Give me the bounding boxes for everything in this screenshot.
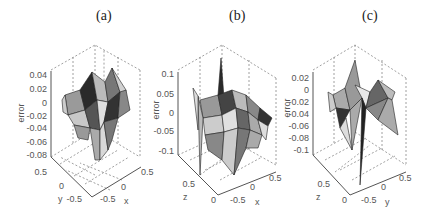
svg-text:0.5: 0.5 [317,179,330,189]
plot-b-z2-ticks: 0.5 0 [182,179,216,205]
plot-c-base-axes [313,155,406,195]
svg-text:0.5: 0.5 [182,179,195,189]
svg-text:0.1: 0.1 [161,69,174,79]
plot-c-xlabel: y [385,197,390,207]
svg-text:0: 0 [42,98,47,108]
svg-text:0: 0 [169,108,174,118]
plot-c-surface [328,60,398,185]
svg-text:0.02: 0.02 [29,84,47,94]
svg-text:0: 0 [342,195,347,205]
svg-text:0: 0 [59,181,64,191]
svg-text:-0.08: -0.08 [288,133,309,143]
svg-text:-0.5: -0.5 [66,194,82,204]
svg-text:-0.1: -0.1 [293,145,309,155]
svg-text:-0.04: -0.04 [26,123,47,133]
svg-text:0: 0 [381,182,386,192]
plot-b-ylabel: z [183,192,188,202]
svg-text:-0.05: -0.05 [153,126,174,136]
svg-text:0.5: 0.5 [399,173,412,183]
plot-a-xlabel: x [124,196,129,206]
svg-text:0: 0 [211,195,216,205]
svg-text:0: 0 [250,182,255,192]
svg-text:0.04: 0.04 [29,70,47,80]
plot-b: 0.1 0.05 0 -0.05 -0.1 error 0.5 0 z -0.5… [151,45,282,207]
plot-c: 0.02 0 -0.02 -0.04 -0.06 -0.08 -0.1 erro… [282,45,412,207]
svg-text:0: 0 [304,85,309,95]
plot-c-zlabel: error [282,98,292,117]
plot-b-surface [193,58,272,175]
plot-a-zlabel: error [16,103,26,122]
plot-b-xlabel: x [255,197,260,207]
svg-text:0.5: 0.5 [34,167,47,177]
plot-a-surface [62,68,130,160]
svg-text:-0.06: -0.06 [288,121,309,131]
svg-text:-0.06: -0.06 [26,137,47,147]
plot-c-ylabel: z [316,192,321,202]
svg-text:0.5: 0.5 [269,173,282,183]
plot-a-ylabel: y [58,194,63,204]
svg-text:0.5: 0.5 [141,167,154,177]
svg-text:-0.02: -0.02 [26,111,47,121]
svg-text:-0.08: -0.08 [26,150,47,160]
plot-c-z2-ticks: 0.5 0 [317,179,347,205]
svg-text:-0.1: -0.1 [158,146,174,156]
svg-text:0.02: 0.02 [291,73,309,83]
svg-text:0.05: 0.05 [156,89,174,99]
plot-a: 0.04 0.02 0 -0.02 -0.04 -0.06 -0.08 erro… [16,45,154,206]
svg-text:-0.5: -0.5 [100,194,116,204]
plot-b-zlabel: error [151,100,161,119]
plot-a-z-ticks: 0.04 0.02 0 -0.02 -0.04 -0.06 -0.08 [26,70,47,160]
svg-text:-0.5: -0.5 [230,195,246,205]
figure-canvas: 0.04 0.02 0 -0.02 -0.04 -0.06 -0.08 erro… [0,0,426,222]
svg-text:-0.5: -0.5 [361,195,377,205]
svg-text:0: 0 [121,182,126,192]
